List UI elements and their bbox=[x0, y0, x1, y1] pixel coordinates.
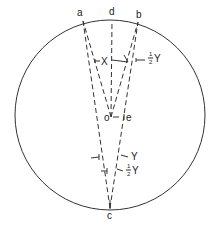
half-y-bottom-num: 1 bbox=[127, 163, 131, 169]
half-y-bottom-arrow-right bbox=[117, 169, 123, 171]
half-y-top-num: 1 bbox=[149, 51, 153, 57]
line-o-d bbox=[111, 21, 112, 117]
half-y-top-den: 2 bbox=[149, 59, 153, 65]
y-bottom-arrow-left bbox=[91, 157, 99, 158]
label-x: X bbox=[101, 56, 108, 67]
label-e: e bbox=[126, 112, 132, 123]
label-y-bottom: Y bbox=[131, 151, 138, 162]
label-a: a bbox=[77, 7, 83, 18]
circle-angle-diagram: X 1 2 Y Y 1 2 Y a d b o e c bbox=[0, 0, 219, 227]
half-y-bottom-den: 2 bbox=[127, 171, 131, 177]
y-bottom-arrow-right bbox=[121, 155, 128, 157]
x-arrow-right bbox=[112, 60, 128, 62]
line-o-b bbox=[111, 22, 138, 117]
label-d: d bbox=[109, 6, 115, 17]
label-half-y-top: Y bbox=[154, 53, 161, 64]
label-half-y-bottom: Y bbox=[132, 165, 139, 176]
line-o-a bbox=[83, 21, 111, 117]
label-b: b bbox=[136, 9, 142, 20]
label-o: o bbox=[104, 112, 110, 123]
label-c: c bbox=[107, 210, 112, 221]
